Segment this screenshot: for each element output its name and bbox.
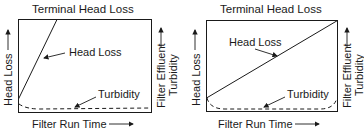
x-axis-label: Filter Run Time [32, 118, 107, 130]
turbidity-pointer-arrow [75, 97, 96, 107]
turbidity-label: Turbidity [287, 88, 329, 100]
y-axis-left-label: Head Loss [2, 53, 14, 106]
panel-title: Terminal Head Loss [220, 3, 322, 15]
turbidity-label: Turbidity [98, 88, 140, 100]
x-axis-label: Filter Run Time [218, 118, 293, 130]
y-axis-right-label-line1: Filter Effluent [155, 43, 167, 108]
panel-left: Terminal Head Loss Head Loss Turbidity H… [2, 3, 179, 130]
turbidity-pointer-arrow [264, 97, 285, 107]
head-loss-curve [19, 20, 58, 100]
y-axis-left-label: Head Loss [190, 53, 202, 106]
head-loss-curve [207, 21, 338, 99]
y-axis-right-label-line2: Turbidity [167, 54, 179, 96]
y-axis-right-label-line1: Filter Effluent [341, 43, 353, 108]
y-axis-right-label-line2: Turbidity [353, 54, 364, 96]
filter-run-diagrams: Terminal Head Loss Head Loss Turbidity H… [0, 0, 364, 137]
panel-right: Terminal Head Loss Head Loss Turbidity H… [190, 3, 364, 130]
head-loss-label: Head Loss [229, 36, 282, 48]
turbidity-curve [19, 104, 151, 109]
head-loss-pointer-arrow [44, 53, 65, 58]
panel-title: Terminal Head Loss [32, 3, 134, 15]
head-loss-pointer-arrow [255, 49, 277, 56]
head-loss-label: Head Loss [69, 46, 122, 58]
